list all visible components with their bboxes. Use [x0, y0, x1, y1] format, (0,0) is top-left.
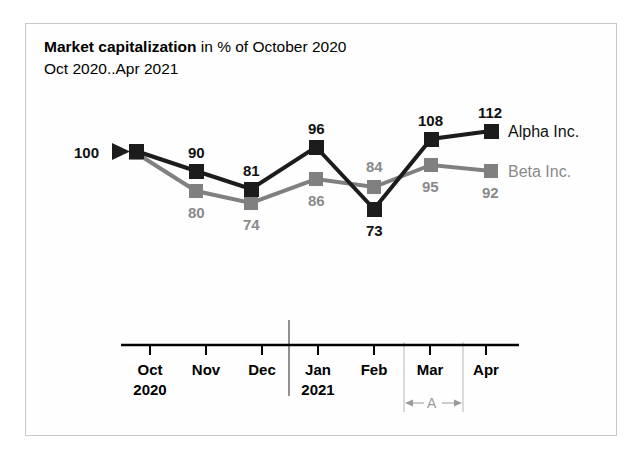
data-point-beta-mar: [424, 158, 438, 172]
axis-year-2021: 2021: [301, 381, 334, 398]
span-label: A: [427, 395, 437, 411]
data-point-beta-dec: [244, 196, 258, 210]
value-label-alpha-mar: 108: [418, 112, 443, 129]
data-point-beta-feb: [367, 180, 381, 194]
legend-label-alpha: Alpha Inc.: [508, 123, 579, 140]
value-label-alpha-nov: 90: [188, 144, 205, 161]
span-arrow-right-icon: [454, 400, 462, 407]
axis-year-2020: 2020: [133, 381, 166, 398]
value-label-alpha-apr: 112: [478, 104, 502, 121]
axis-label-jan: Jan: [305, 361, 331, 378]
span-arrow-left-icon: [405, 400, 413, 407]
axis-label-feb: Feb: [361, 361, 388, 378]
value-label-alpha-jan: 96: [308, 120, 325, 137]
value-label-alpha-dec: 81: [243, 162, 260, 179]
chart-frame: Market capitalization in % of October 20…: [25, 23, 617, 436]
start-value-label: 100: [74, 144, 99, 161]
triangle-right-icon: [112, 143, 130, 160]
line-chart-plot: 100 90 81 96 73 108 112 80 74 86 84 95 9…: [26, 24, 618, 437]
data-point-alpha-apr: [484, 124, 499, 139]
value-label-beta-feb: 84: [366, 158, 383, 175]
value-label-alpha-feb: 73: [366, 222, 383, 239]
legend-label-beta: Beta Inc.: [508, 163, 571, 180]
axis-label-dec: Dec: [248, 361, 276, 378]
data-point-alpha-dec: [244, 182, 259, 197]
value-label-beta-nov: 80: [188, 204, 205, 221]
axis-label-nov: Nov: [192, 361, 221, 378]
value-label-beta-mar: 95: [422, 178, 439, 195]
axis-label-apr: Apr: [473, 361, 499, 378]
data-point-alpha-jan: [309, 140, 324, 155]
data-point-alpha-feb: [367, 202, 382, 217]
data-point-alpha-nov: [189, 164, 204, 179]
axis-label-oct: Oct: [137, 361, 162, 378]
value-label-beta-dec: 74: [243, 216, 260, 233]
data-point-beta-apr: [484, 164, 498, 178]
axis-label-mar: Mar: [417, 361, 444, 378]
data-point-beta-nov: [189, 184, 203, 198]
value-label-beta-apr: 92: [482, 184, 499, 201]
value-label-beta-jan: 86: [308, 192, 325, 209]
data-point-alpha-mar: [424, 132, 439, 147]
data-point-alpha-oct: [129, 144, 144, 159]
data-point-beta-jan: [309, 172, 323, 186]
